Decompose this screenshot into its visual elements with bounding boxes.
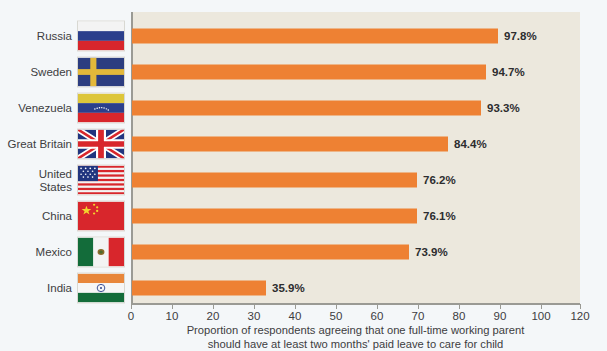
table-row: India 35.9% xyxy=(0,270,607,306)
x-tick-label: 10 xyxy=(166,310,179,322)
bar-value-label: 76.2% xyxy=(423,174,456,186)
category-label: Russia xyxy=(0,30,72,43)
bar-value-label: 35.9% xyxy=(272,282,305,294)
bar xyxy=(132,173,417,188)
flag-sweden-icon xyxy=(77,57,125,88)
table-row: Venezuela 93.3% xyxy=(0,90,607,126)
table-row: Russia 97.8% xyxy=(0,18,607,54)
x-tick xyxy=(459,304,460,309)
category-label: United States xyxy=(0,168,72,193)
bar xyxy=(132,245,409,260)
bar xyxy=(132,65,486,80)
flag-great-britain-icon xyxy=(77,129,125,160)
x-tick xyxy=(336,304,337,309)
table-row: United States 76.2% xyxy=(0,162,607,198)
bar-value-label: 97.8% xyxy=(504,30,537,42)
bar xyxy=(132,209,417,224)
category-label: Sweden xyxy=(0,66,72,79)
category-label: India xyxy=(0,282,72,295)
x-tick xyxy=(500,304,501,309)
bar-value-label: 94.7% xyxy=(492,66,525,78)
flag-india-icon xyxy=(77,273,125,304)
bar-value-label: 93.3% xyxy=(487,102,520,114)
flag-venezuela-icon xyxy=(77,93,125,124)
x-tick xyxy=(131,304,132,309)
bar-value-label: 73.9% xyxy=(415,246,448,258)
x-tick-label: 30 xyxy=(248,310,261,322)
x-tick-label: 40 xyxy=(289,310,302,322)
table-row: Mexico 73.9% xyxy=(0,234,607,270)
category-label: Venezuela xyxy=(0,102,72,115)
bar-value-label: 76.1% xyxy=(423,210,456,222)
x-tick xyxy=(418,304,419,309)
caption-line-1: Proportion of respondents agreeing that … xyxy=(131,324,580,338)
x-tick-label: 90 xyxy=(494,310,507,322)
flag-china-icon xyxy=(77,201,125,232)
x-tick-label: 0 xyxy=(128,310,134,322)
category-label: Great Britain xyxy=(0,138,72,151)
bar xyxy=(132,29,498,44)
caption-line-2: should have at least two months' paid le… xyxy=(131,338,580,351)
category-label: China xyxy=(0,210,72,223)
x-tick-label: 80 xyxy=(453,310,466,322)
x-tick-label: 100 xyxy=(531,310,550,322)
x-tick xyxy=(254,304,255,309)
x-tick-label: 120 xyxy=(570,310,589,322)
flag-mexico-icon xyxy=(77,237,125,268)
x-tick xyxy=(295,304,296,309)
x-tick xyxy=(541,304,542,309)
bar-value-label: 84.4% xyxy=(454,138,487,150)
x-tick xyxy=(213,304,214,309)
x-tick-label: 60 xyxy=(371,310,384,322)
x-tick xyxy=(172,304,173,309)
flag-russia-icon xyxy=(77,21,125,52)
bar xyxy=(132,137,448,152)
x-tick-label: 50 xyxy=(330,310,343,322)
table-row: China 76.1% xyxy=(0,198,607,234)
table-row: Sweden 94.7% xyxy=(0,54,607,90)
x-tick xyxy=(580,304,581,309)
x-tick xyxy=(377,304,378,309)
x-tick-label: 70 xyxy=(412,310,425,322)
flag-united-states-icon xyxy=(77,165,125,196)
bar xyxy=(132,281,266,296)
category-label: Mexico xyxy=(0,246,72,259)
bar xyxy=(132,101,481,116)
table-row: Great Britain 84.4% xyxy=(0,126,607,162)
x-axis-caption: Proportion of respondents agreeing that … xyxy=(131,324,580,351)
x-tick-label: 20 xyxy=(207,310,220,322)
